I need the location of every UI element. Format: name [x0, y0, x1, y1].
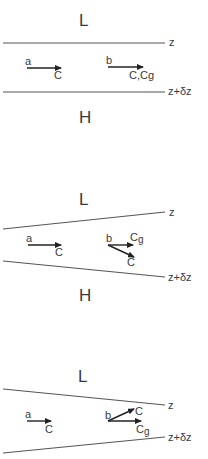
region-label-low: L [79, 190, 88, 209]
region-label-high: H [79, 108, 91, 127]
lower-boundary-line [3, 261, 165, 277]
upper-boundary-line [3, 389, 165, 405]
panel-diverging: L z a C b C Cg z+δz [3, 367, 192, 453]
point-b-label: b [106, 54, 112, 66]
vector-label-a: C [55, 246, 63, 258]
wave-propagation-diagram: L z a C b C,Cg z+δz H L z a C b Cg C z+δ… [0, 0, 208, 459]
group-velocity-label: Cg [130, 231, 144, 245]
region-label-low: L [79, 11, 88, 30]
lower-line-label: z+δz [168, 271, 192, 283]
upper-line-label: z [168, 399, 174, 411]
upper-line-label: z [169, 36, 175, 48]
lower-line-label: z+δz [168, 431, 192, 443]
vector-label-a: C [45, 423, 53, 435]
lower-boundary-line [3, 437, 165, 453]
point-b-label: b [105, 409, 111, 421]
region-label-low: L [78, 367, 87, 386]
lower-line-label: z+δz [168, 85, 192, 97]
panel-uniform: L z a C b C,Cg z+δz H [3, 11, 192, 127]
phase-velocity-label: C [135, 405, 143, 417]
vector-label-b: C,Cg [129, 69, 154, 81]
upper-boundary-line [3, 212, 165, 229]
point-a-label: a [25, 408, 32, 420]
region-label-high: H [79, 286, 91, 305]
panel-converging: L z a C b Cg C z+δz H [3, 190, 192, 305]
group-velocity-label: Cg [136, 423, 150, 437]
vector-label-a: C [54, 69, 62, 81]
phase-velocity-label: C [127, 256, 135, 268]
point-b-label: b [106, 232, 112, 244]
point-a-label: a [26, 232, 33, 244]
phase-velocity-arrow-b [108, 409, 134, 421]
point-a-label: a [25, 55, 32, 67]
upper-line-label: z [169, 206, 175, 218]
